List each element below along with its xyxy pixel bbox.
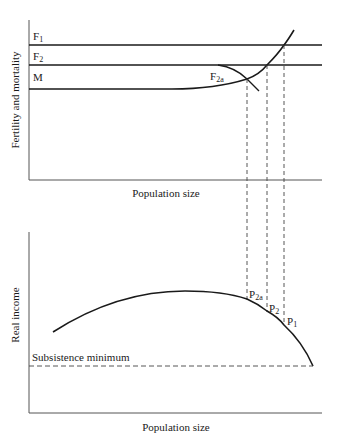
f1-label: F1 [33, 30, 43, 44]
top-x-axis-label: Population size [132, 187, 200, 199]
f2a-curve [218, 65, 259, 91]
top-panel: F1 F2 M F2a Fertility and mortality Popu… [9, 20, 322, 199]
projection-lines [247, 45, 284, 325]
mortality-curve [29, 30, 294, 89]
top-y-axis-label: Fertility and mortality [9, 51, 21, 149]
subsistence-label: Subsistence minimum [32, 351, 130, 363]
p2-label: P2 [269, 302, 279, 316]
malthusian-diagram: F1 F2 M F2a Fertility and mortality Popu… [0, 0, 337, 440]
m-label: M [33, 71, 43, 83]
f2-label: F2 [33, 50, 43, 64]
f2a-label: F2a [210, 70, 224, 84]
p2a-label: P2a [249, 288, 263, 302]
p1-label: P1 [287, 315, 297, 329]
bottom-panel: Subsistence minimum P2a P2 P1 Real incom… [9, 232, 322, 433]
bottom-y-axis-label: Real income [9, 287, 21, 342]
bottom-x-axis-label: Population size [142, 421, 210, 433]
